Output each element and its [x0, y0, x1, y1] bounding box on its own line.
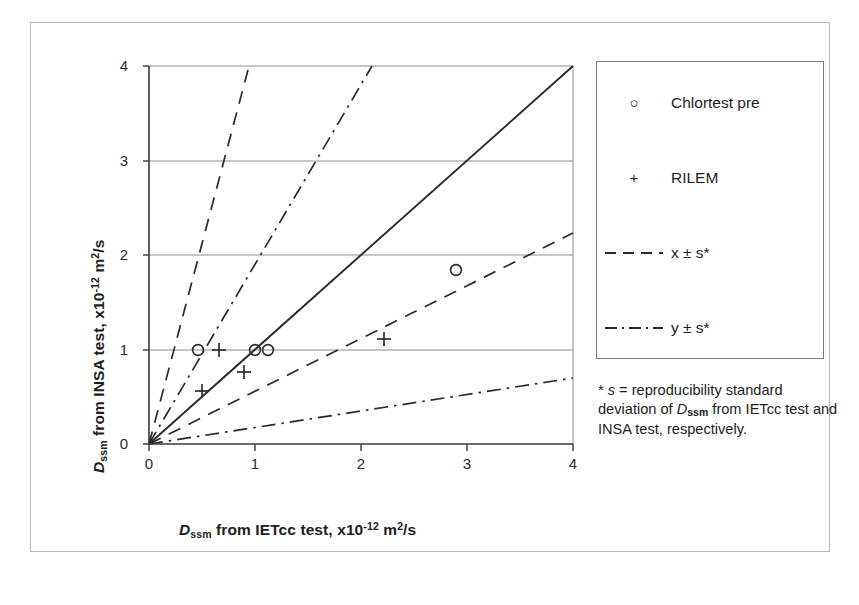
footnote-line4: INSA test, respectively.: [598, 421, 747, 437]
footnote-line3: from IETcc test and: [708, 401, 837, 417]
y-tick-label: 0: [109, 435, 139, 452]
legend-item-y-plus-minus-s[interactable]: y ± s*: [597, 315, 823, 341]
x-axis-title-mid: from IETcc test, x10: [212, 521, 364, 538]
figure-panel: 4 3 2 1 0 0 1 2 3 4 Dssm from INSA test,…: [30, 22, 830, 552]
y-axis-title-exponent2: 2: [89, 253, 101, 259]
y-axis-title: Dssm from INSA test, x10-12 m2/s: [89, 240, 109, 473]
y-axis-title-mid: from INSA test, x10: [90, 293, 107, 441]
data-point-plus: [377, 332, 391, 346]
circle-marker-icon: ○: [597, 90, 671, 116]
x-axis-title-suffix: /s: [403, 521, 416, 538]
x-tick-label: 1: [240, 455, 270, 472]
x-tick-label: 2: [346, 455, 376, 472]
x-axis-title: Dssm from IETcc test, x10-12 m2/s: [179, 520, 416, 540]
x-tick-label: 4: [558, 455, 588, 472]
x-axis-title-mid2: m: [379, 521, 397, 538]
footnote-d-subscript: ssm: [687, 407, 708, 419]
legend-item-rilem[interactable]: + RILEM: [597, 165, 823, 191]
line-x-minus-s: [149, 233, 573, 444]
series-rilem: [195, 332, 391, 398]
data-point-plus: [237, 365, 251, 379]
y-tick-label: 3: [109, 152, 139, 169]
x-axis-title-subscript: ssm: [190, 528, 211, 540]
dashed-line-icon: [597, 240, 671, 266]
series-chlortest-pre: [193, 265, 462, 356]
legend-label: RILEM: [671, 169, 718, 187]
y-tick-label: 4: [109, 57, 139, 74]
plus-marker-icon: +: [597, 165, 671, 191]
y-axis-title-subscript: ssm: [97, 440, 109, 461]
footnote-star: *: [598, 382, 608, 398]
y-axis-title-symbol: D: [90, 462, 107, 473]
y-axis-title-exponent: -12: [89, 277, 101, 292]
legend-label: Chlortest pre: [671, 94, 760, 112]
footnote-s-symbol: s: [608, 382, 615, 398]
legend-label: y ± s*: [671, 319, 710, 337]
data-point-plus: [212, 343, 226, 357]
y-axis-title-mid2: m: [90, 259, 107, 277]
footnote-annotation: * s = reproducibility standard deviation…: [598, 381, 838, 440]
x-tick-label: 3: [452, 455, 482, 472]
data-point-plus: [195, 384, 209, 398]
x-tick-label: 0: [134, 455, 164, 472]
legend-item-chlortest-pre[interactable]: ○ Chlortest pre: [597, 90, 823, 116]
dashdot-line-icon: [597, 315, 671, 341]
y-tick-label: 1: [109, 341, 139, 358]
legend-item-x-plus-minus-s[interactable]: x ± s*: [597, 240, 823, 266]
footnote-d-symbol: D: [677, 401, 688, 417]
data-point-circle: [451, 265, 462, 276]
footnote-line1: = reproducibility: [615, 382, 722, 398]
y-tick-label: 2: [109, 246, 139, 263]
legend-label: x ± s*: [671, 244, 710, 262]
x-axis-title-exponent: -12: [363, 520, 378, 532]
y-axis-title-suffix: /s: [90, 240, 107, 253]
x-axis-title-symbol: D: [179, 521, 190, 538]
legend: ○ Chlortest pre + RILEM x ± s* y ± s*: [596, 61, 824, 359]
